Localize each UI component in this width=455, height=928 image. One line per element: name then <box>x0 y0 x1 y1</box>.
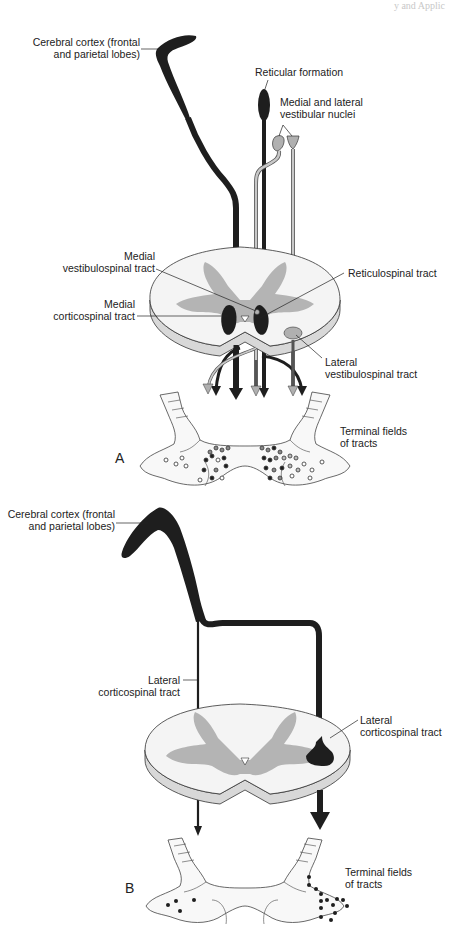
label-medial-corticospinal-line2: corticospinal tract <box>20 310 135 322</box>
label-cortex-b-line2: and parietal lobes) <box>0 520 115 532</box>
cerebral-cortex-a <box>156 35 196 120</box>
label-cortex-a-line1: Cerebral cortex (frontal <box>8 36 140 48</box>
medial-vestibular-nucleus <box>273 136 285 151</box>
terminal-fields-a <box>140 392 350 486</box>
label-lateral-corticospinal-right-line1: Lateral <box>360 714 442 726</box>
label-medial-corticospinal: Medial corticospinal tract <box>20 298 135 322</box>
terminal-fields-b <box>146 838 349 924</box>
label-medial-vestibulospinal-line2: vestibulospinal tract <box>40 262 155 274</box>
lateral-vestibular-nucleus <box>287 136 299 149</box>
label-lateral-corticospinal-left-line1: Lateral <box>70 674 180 686</box>
panel-letter-a: A <box>115 450 124 466</box>
label-lateral-vestibulospinal: Lateral vestibulospinal tract <box>325 356 417 380</box>
spinal-cord-section-b <box>145 704 350 804</box>
label-terminal-fields-b-line2: of tracts <box>345 878 412 890</box>
label-medial-vestibulospinal: Medial vestibulospinal tract <box>40 250 155 274</box>
label-terminal-fields-a: Terminal fields of tracts <box>340 425 407 449</box>
label-medial-vestibulospinal-line1: Medial <box>40 250 155 262</box>
label-cortex-b: Cerebral cortex (frontal and parietal lo… <box>0 508 115 532</box>
diagram-canvas <box>0 0 455 928</box>
label-terminal-fields-b: Terminal fields of tracts <box>345 866 412 890</box>
label-terminal-fields-b-line1: Terminal fields <box>345 866 412 878</box>
label-lateral-corticospinal-right-line2: corticospinal tract <box>360 726 442 738</box>
label-medial-corticospinal-line1: Medial <box>20 298 135 310</box>
label-reticular-formation: Reticular formation <box>255 66 343 78</box>
reticular-formation <box>258 89 270 121</box>
label-vestibular-nuclei-line1: Medial and lateral <box>280 96 363 108</box>
label-lateral-corticospinal-left: Lateral corticospinal tract <box>70 674 180 698</box>
label-lateral-corticospinal-left-line2: corticospinal tract <box>70 686 180 698</box>
label-lateral-vestibulospinal-line2: vestibulospinal tract <box>325 368 417 380</box>
label-lateral-vestibulospinal-line1: Lateral <box>325 356 417 368</box>
label-vestibular-nuclei: Medial and lateral vestibular nuclei <box>280 96 363 120</box>
label-cortex-a-line2: and parietal lobes) <box>8 48 140 60</box>
label-reticulospinal: Reticulospinal tract <box>348 267 437 279</box>
spinal-cord-section-a <box>150 247 340 356</box>
label-terminal-fields-a-line1: Terminal fields <box>340 425 407 437</box>
panel-letter-b: B <box>125 880 134 896</box>
label-vestibular-nuclei-line2: vestibular nuclei <box>280 108 363 120</box>
cerebral-cortex-b <box>121 508 206 622</box>
label-cortex-b-line1: Cerebral cortex (frontal <box>0 508 115 520</box>
label-cortex-a: Cerebral cortex (frontal and parietal lo… <box>8 36 140 60</box>
panel-b <box>116 508 358 924</box>
label-lateral-corticospinal-right: Lateral corticospinal tract <box>360 714 442 738</box>
label-terminal-fields-a-line2: of tracts <box>340 437 407 449</box>
